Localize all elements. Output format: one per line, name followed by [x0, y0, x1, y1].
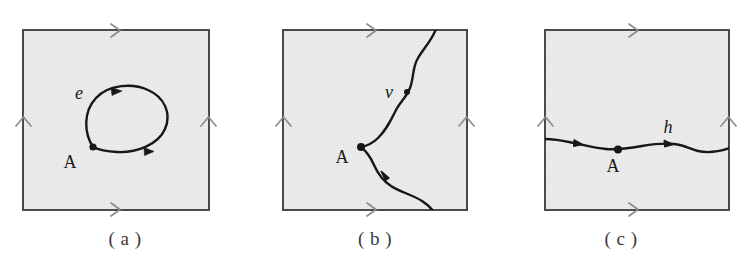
point-v-marker	[404, 89, 410, 95]
panel-a-diagram: A e	[0, 0, 250, 225]
base-point-a	[357, 143, 365, 151]
loop-label-e: e	[75, 83, 83, 103]
base-point-label-a: A	[607, 156, 620, 176]
panel-c-diagram: A h	[496, 0, 745, 225]
panel-c-caption: ( c )	[496, 228, 745, 250]
panel-c: A h ( c )	[496, 0, 745, 277]
figure-torus-generators: A e ( a )	[0, 0, 745, 277]
curve-label-v: v	[385, 82, 393, 102]
base-point-a	[89, 143, 96, 150]
torus-square-b	[283, 30, 467, 210]
base-point-a	[614, 146, 622, 154]
curve-label-h: h	[664, 117, 673, 137]
panel-b-caption: ( b )	[250, 228, 500, 250]
torus-square-a	[23, 30, 209, 210]
panel-b-diagram: v A	[250, 0, 500, 225]
panel-a-caption: ( a )	[0, 228, 250, 250]
panel-b: v A ( b )	[250, 0, 500, 277]
panel-a: A e ( a )	[0, 0, 250, 277]
torus-square-c	[545, 30, 729, 210]
base-point-label-a: A	[64, 152, 77, 172]
base-point-label-a: A	[336, 147, 349, 167]
